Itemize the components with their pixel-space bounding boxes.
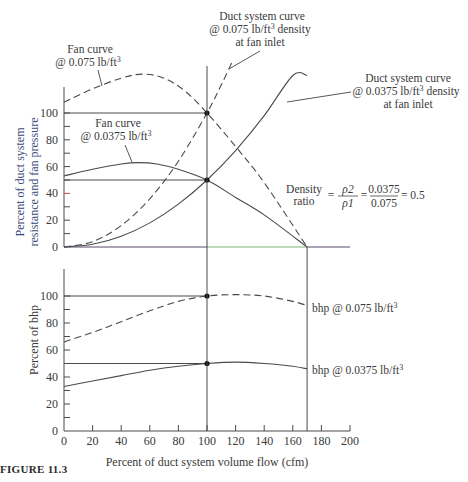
fan0375-label-line1: Fan curve xyxy=(95,117,141,129)
bhp075-label: bhp @ 0.075 lb/ft3 xyxy=(312,301,398,315)
y-tick-label: 20 xyxy=(46,397,58,411)
duct0375-label-line2: @ 0.0375 lb/ft3 density xyxy=(352,84,459,98)
top-chart-panel: 020406080100 xyxy=(40,61,350,254)
y-tick-label: 40 xyxy=(46,370,58,384)
x-tick-label: 100 xyxy=(198,434,216,448)
x-tick-label: 140 xyxy=(255,434,273,448)
rho1: ρ1 xyxy=(341,197,353,210)
y-tick-label: 80 xyxy=(46,133,58,147)
y-tick-label: 60 xyxy=(46,343,58,357)
y-tick-label: 100 xyxy=(40,106,58,120)
bottom-chart-panel: 020406080100020406080100120140160180200 xyxy=(40,269,359,448)
ratio-word: ratio xyxy=(293,195,314,207)
series-fan-curve-0-0375-lb-ft3 xyxy=(64,163,307,247)
bottom-y-axis-title: Percent of bhp xyxy=(27,305,41,375)
annotation-duct-curve-0375: Duct system curve @ 0.0375 lb/ft3 densit… xyxy=(287,72,460,110)
x-axis-title: Percent of duct system volume flow (cfm) xyxy=(106,455,309,469)
equals-result: = 0.5 xyxy=(401,189,425,201)
x-tick-label: 160 xyxy=(284,434,302,448)
annotation-density-ratio: Density ratio = ρ2 ρ1 = 0.0375 0.075 = 0… xyxy=(286,183,425,210)
x-tick-label: 0 xyxy=(61,434,67,448)
series-bhp-0-075-lb-ft3 xyxy=(64,295,307,342)
annotation-duct-curve-075: Duct system curve @ 0.075 lb/ft3 density… xyxy=(209,10,311,69)
fan075-label-line2: @ 0.075 lb/ft3 xyxy=(55,55,120,69)
rho2: ρ2 xyxy=(341,183,354,196)
y-tick-label: 0 xyxy=(52,240,58,254)
numerator: 0.0375 xyxy=(368,183,400,195)
duct0375-label-line3: at fan inlet xyxy=(383,98,433,110)
fan075-label-line1: Fan curve xyxy=(67,43,113,55)
duct075-leader-line xyxy=(229,51,260,69)
series-fan-curve-0-075-lb-ft3 xyxy=(64,74,307,247)
y-tick-label: 100 xyxy=(40,289,58,303)
x-tick-label: 120 xyxy=(227,434,245,448)
equals-1: = xyxy=(328,189,335,201)
x-tick-label: 200 xyxy=(341,434,359,448)
annotation-bhp-075: bhp @ 0.075 lb/ft3 xyxy=(312,301,398,315)
y-tick-label: 20 xyxy=(46,213,58,227)
series-bhp-0-0375-lb-ft3 xyxy=(64,362,307,386)
top-y-axis-title-line1: Percent of duct system xyxy=(13,127,27,237)
duct075-label-line2: @ 0.075 lb/ft3 density xyxy=(209,22,311,36)
x-tick-label: 80 xyxy=(172,434,184,448)
x-tick-label: 40 xyxy=(115,434,127,448)
duct0375-label-line1: Duct system curve xyxy=(365,72,451,85)
top-y-axis-title-line2: resistance and fan pressure xyxy=(27,118,41,247)
figure-canvas: 020406080100 020406080100020406080100120… xyxy=(0,0,468,482)
x-tick-label: 60 xyxy=(144,434,156,448)
bhp0375-label: bhp @ 0.0375 lb/ft3 xyxy=(312,363,403,377)
annotation-fan-curve-0375: Fan curve @ 0.0375 lb/ft3 xyxy=(80,117,151,162)
figure-caption: FIGURE 11.3 xyxy=(0,463,67,475)
duct0375-leader-line xyxy=(287,92,351,102)
y-tick-label: 60 xyxy=(46,160,58,174)
fan0375-leader-line xyxy=(125,145,132,162)
annotation-fan-curve-075: Fan curve @ 0.075 lb/ft3 xyxy=(55,43,120,86)
denominator: 0.075 xyxy=(371,197,397,209)
y-tick-label: 40 xyxy=(46,186,58,200)
x-tick-label: 180 xyxy=(312,434,330,448)
fan075-leader-line xyxy=(98,70,102,86)
duct075-label-line3: at fan inlet xyxy=(235,36,285,48)
y-tick-label: 0 xyxy=(52,424,58,438)
y-tick-label: 80 xyxy=(46,316,58,330)
x-tick-label: 20 xyxy=(87,434,99,448)
fan0375-label-line2: @ 0.0375 lb/ft3 xyxy=(80,129,151,143)
series-duct-system-curve-0-0375-lb-ft3-density-at-fan-inlet xyxy=(64,73,307,247)
duct075-label-line1: Duct system curve xyxy=(219,10,305,23)
equals-2: = xyxy=(361,189,368,201)
annotation-bhp-0375: bhp @ 0.0375 lb/ft3 xyxy=(312,363,403,377)
